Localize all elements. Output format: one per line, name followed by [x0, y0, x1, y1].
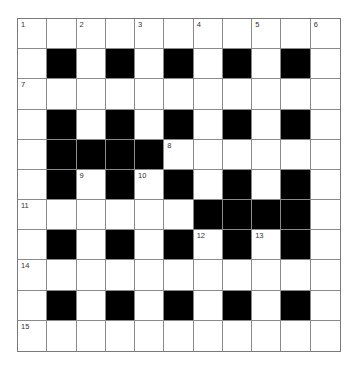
letter-cell[interactable]: 7: [18, 79, 47, 109]
letter-cell[interactable]: [135, 230, 164, 260]
clue-number: 5: [255, 21, 259, 29]
letter-cell[interactable]: [194, 110, 223, 140]
letter-cell[interactable]: [194, 140, 223, 170]
letter-cell[interactable]: [164, 19, 193, 49]
letter-cell[interactable]: [18, 110, 47, 140]
letter-cell[interactable]: [106, 260, 135, 290]
block-cell: [164, 291, 193, 321]
letter-cell[interactable]: 5: [252, 19, 281, 49]
letter-cell[interactable]: [194, 260, 223, 290]
letter-cell[interactable]: [223, 79, 252, 109]
letter-cell[interactable]: [223, 260, 252, 290]
clue-number: 4: [197, 21, 201, 29]
letter-cell[interactable]: 2: [77, 19, 106, 49]
letter-cell[interactable]: [77, 110, 106, 140]
letter-cell[interactable]: [281, 79, 310, 109]
letter-cell[interactable]: [47, 321, 76, 351]
letter-cell[interactable]: [135, 79, 164, 109]
block-cell: [47, 230, 76, 260]
letter-cell[interactable]: 9: [77, 170, 106, 200]
letter-cell[interactable]: [77, 260, 106, 290]
letter-cell[interactable]: [252, 260, 281, 290]
letter-cell[interactable]: [135, 321, 164, 351]
letter-cell[interactable]: [311, 230, 340, 260]
letter-cell[interactable]: [77, 291, 106, 321]
letter-cell[interactable]: [252, 140, 281, 170]
clue-number: 14: [21, 262, 29, 270]
letter-cell[interactable]: [281, 19, 310, 49]
clue-number: 6: [314, 21, 318, 29]
letter-cell[interactable]: [18, 170, 47, 200]
letter-cell[interactable]: [311, 291, 340, 321]
letter-cell[interactable]: [194, 79, 223, 109]
letter-cell[interactable]: [106, 321, 135, 351]
letter-cell[interactable]: [135, 49, 164, 79]
letter-cell[interactable]: [194, 291, 223, 321]
letter-cell[interactable]: 11: [18, 200, 47, 230]
letter-cell[interactable]: [18, 230, 47, 260]
letter-cell[interactable]: [77, 230, 106, 260]
block-cell: [281, 49, 310, 79]
letter-cell[interactable]: [252, 110, 281, 140]
letter-cell[interactable]: [135, 110, 164, 140]
letter-cell[interactable]: [164, 79, 193, 109]
letter-cell[interactable]: 3: [135, 19, 164, 49]
letter-cell[interactable]: 6: [311, 19, 340, 49]
letter-cell[interactable]: [47, 79, 76, 109]
letter-cell[interactable]: [223, 140, 252, 170]
letter-cell[interactable]: [106, 19, 135, 49]
letter-cell[interactable]: [18, 140, 47, 170]
letter-cell[interactable]: [252, 291, 281, 321]
letter-cell[interactable]: [18, 49, 47, 79]
letter-cell[interactable]: [135, 260, 164, 290]
letter-cell[interactable]: [135, 200, 164, 230]
block-cell: [281, 110, 310, 140]
letter-cell[interactable]: [194, 49, 223, 79]
letter-cell[interactable]: [135, 291, 164, 321]
letter-cell[interactable]: [281, 140, 310, 170]
letter-cell[interactable]: [281, 321, 310, 351]
letter-cell[interactable]: 13: [252, 230, 281, 260]
letter-cell[interactable]: [311, 260, 340, 290]
letter-cell[interactable]: [164, 260, 193, 290]
letter-cell[interactable]: [252, 49, 281, 79]
letter-cell[interactable]: [164, 321, 193, 351]
letter-cell[interactable]: [252, 79, 281, 109]
clue-number: 8: [167, 142, 171, 150]
letter-cell[interactable]: [281, 260, 310, 290]
letter-cell[interactable]: [47, 260, 76, 290]
letter-cell[interactable]: [77, 79, 106, 109]
letter-cell[interactable]: [223, 19, 252, 49]
letter-cell[interactable]: [106, 200, 135, 230]
block-cell: [281, 291, 310, 321]
letter-cell[interactable]: [106, 79, 135, 109]
letter-cell[interactable]: [77, 49, 106, 79]
letter-cell[interactable]: [311, 170, 340, 200]
letter-cell[interactable]: 15: [18, 321, 47, 351]
letter-cell[interactable]: [77, 321, 106, 351]
letter-cell[interactable]: [164, 200, 193, 230]
letter-cell[interactable]: [311, 321, 340, 351]
letter-cell[interactable]: [47, 19, 76, 49]
letter-cell[interactable]: [252, 321, 281, 351]
letter-cell[interactable]: [194, 170, 223, 200]
letter-cell[interactable]: 14: [18, 260, 47, 290]
letter-cell[interactable]: [47, 200, 76, 230]
letter-cell[interactable]: 1: [18, 19, 47, 49]
letter-cell[interactable]: [194, 321, 223, 351]
letter-cell[interactable]: [18, 291, 47, 321]
letter-cell[interactable]: 12: [194, 230, 223, 260]
block-cell: [164, 110, 193, 140]
letter-cell[interactable]: [311, 110, 340, 140]
letter-cell[interactable]: [311, 79, 340, 109]
letter-cell[interactable]: [77, 200, 106, 230]
letter-cell[interactable]: 8: [164, 140, 193, 170]
letter-cell[interactable]: [223, 321, 252, 351]
letter-cell[interactable]: 4: [194, 19, 223, 49]
block-cell: [106, 291, 135, 321]
letter-cell[interactable]: [311, 49, 340, 79]
letter-cell[interactable]: 10: [135, 170, 164, 200]
letter-cell[interactable]: [311, 140, 340, 170]
letter-cell[interactable]: [252, 170, 281, 200]
letter-cell[interactable]: [311, 200, 340, 230]
